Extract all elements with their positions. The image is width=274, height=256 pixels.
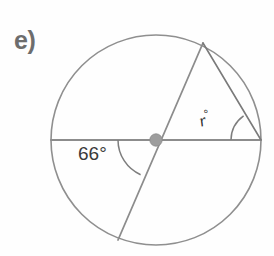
angle-arc-66-marker xyxy=(118,140,141,175)
angle-arc-r-marker xyxy=(231,116,244,140)
circle-center-dot xyxy=(150,134,162,146)
circle-geometry-diagram xyxy=(0,0,274,256)
part-label: e) xyxy=(14,28,35,53)
geometry-figure-container: e) 66° r° xyxy=(0,0,274,256)
angle-label-66: 66° xyxy=(78,144,107,163)
